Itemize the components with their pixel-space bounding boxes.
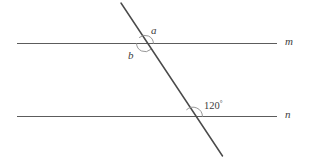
angle-label-120: 120°	[204, 101, 223, 112]
geometry-figure: a b m n 120°	[0, 0, 310, 163]
line-label-m: m	[285, 36, 293, 47]
line-label-n: n	[285, 109, 291, 120]
degree-symbol-icon: °	[220, 99, 223, 107]
angle-label-b: b	[128, 50, 134, 61]
angle-label-a: a	[151, 25, 157, 36]
transversal-line	[121, 3, 223, 156]
angle-value-text: 120	[204, 100, 220, 111]
